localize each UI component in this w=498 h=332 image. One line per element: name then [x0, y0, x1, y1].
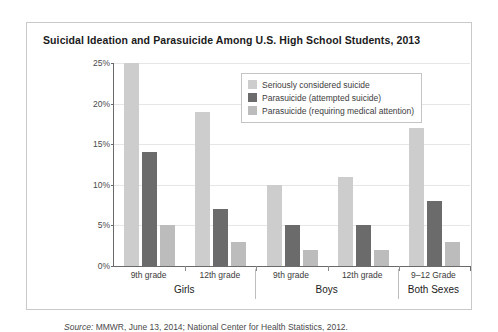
x-axis-grade-label: 12th grade: [184, 270, 255, 280]
legend-item: Seriously considered suicide: [248, 78, 414, 91]
y-axis-tick-label: 20%: [93, 99, 110, 109]
bar: [409, 128, 424, 266]
source-label: Source:: [64, 322, 93, 332]
legend-swatch-icon: [248, 80, 257, 89]
bar: [213, 209, 228, 266]
legend-item: Parasuicide (requiring medical attention…: [248, 104, 414, 117]
bar: [427, 201, 442, 266]
bar: [374, 250, 389, 266]
chart-legend: Seriously considered suicideParasuicide …: [241, 73, 422, 123]
y-axis-tick-label: 15%: [93, 139, 110, 149]
x-axis-group-divider: [255, 269, 256, 299]
bar: [338, 177, 353, 266]
legend-label: Seriously considered suicide: [262, 80, 370, 90]
bar: [445, 242, 460, 266]
axis-end-tick: [470, 266, 471, 271]
bar: [160, 225, 175, 266]
y-axis-tick-mark: [111, 266, 114, 267]
bar: [303, 250, 318, 266]
x-axis-grade-label: 9th grade: [113, 270, 184, 280]
bar-group: [114, 63, 185, 266]
legend-label: Parasuicide (requiring medical attention…: [262, 106, 414, 116]
source-note: Source: MMWR, June 13, 2014; National Ce…: [64, 322, 348, 332]
figure-card: Suicidal Ideation and Parasuicide Among …: [26, 22, 472, 310]
bar: [285, 225, 300, 266]
legend-item: Parasuicide (attempted suicide): [248, 91, 414, 104]
x-axis-group-label: Girls: [113, 284, 255, 295]
x-axis-group-label: Boys: [255, 284, 397, 295]
bar: [124, 63, 139, 266]
x-axis-grade-label: 12th grade: [327, 270, 398, 280]
x-axis-group-label: Both Sexes: [398, 284, 469, 295]
x-axis-grade-labels: 9th grade12th grade9th grade12th grade9–…: [113, 270, 469, 280]
bar: [142, 152, 157, 266]
bar: [231, 242, 246, 266]
legend-swatch-icon: [248, 106, 257, 115]
y-axis-tick-label: 25%: [93, 58, 110, 68]
y-axis-tick-label: 0%: [98, 261, 110, 271]
legend-label: Parasuicide (attempted suicide): [262, 93, 381, 103]
bar: [267, 185, 282, 266]
x-axis-grade-label: 9–12 Grade: [398, 270, 469, 280]
source-text: MMWR, June 13, 2014; National Center for…: [93, 322, 348, 332]
y-axis-tick-label: 10%: [93, 180, 110, 190]
x-axis-group-labels: GirlsBoysBoth Sexes: [113, 284, 469, 295]
plot-wrapper: 0%5%10%15%20%25% 9th grade12th grade9th …: [27, 23, 473, 311]
legend-swatch-icon: [248, 93, 257, 102]
y-axis-tick-label: 5%: [98, 220, 110, 230]
x-axis-grade-label: 9th grade: [255, 270, 326, 280]
bar: [356, 225, 371, 266]
bar: [195, 112, 210, 266]
x-axis-group-divider: [398, 269, 399, 299]
